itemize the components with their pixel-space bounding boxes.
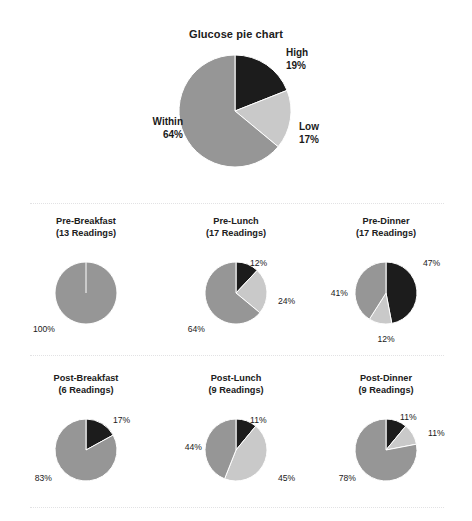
main-pie-label-within: Within 64% — [0, 116, 183, 141]
pie-chart-post-dinner — [352, 416, 420, 484]
section-divider-top — [30, 203, 444, 204]
chart-title-pre-dinner: Pre-Dinner (17 Readings) — [316, 216, 456, 239]
chart-title-post-breakfast: Post-Breakfast (6 Readings) — [16, 373, 156, 396]
page-title: Glucose pie chart — [0, 28, 472, 40]
pct-label-pre-dinner-high: 47% — [423, 258, 440, 268]
main-pie-label-low: Low 17% — [299, 121, 319, 146]
pct-label-post-dinner-low: 11% — [428, 428, 445, 438]
pct-label-post-lunch-high: 11% — [250, 415, 267, 425]
chart-title-post-dinner: Post-Dinner (9 Readings) — [316, 373, 456, 396]
pct-label-pre-lunch-high: 12% — [250, 258, 267, 268]
chart-title-post-lunch: Post-Lunch (9 Readings) — [166, 373, 306, 396]
pie-chart-pre-dinner — [352, 259, 420, 327]
section-divider-bottom — [30, 507, 444, 508]
pie-chart-main — [176, 52, 294, 170]
chart-title-pre-lunch: Pre-Lunch (17 Readings) — [166, 216, 306, 239]
main-pie-label-high: High 19% — [286, 47, 308, 72]
section-divider-middle — [30, 355, 444, 356]
pct-label-post-breakfast-high: 17% — [113, 415, 130, 425]
pct-label-pre-dinner-within: 41% — [0, 288, 348, 298]
pie-slice-high — [386, 262, 417, 323]
pct-label-pre-dinner-low: 12% — [346, 334, 426, 344]
glucose-pie-report: Glucose pie chart High 19%Low 17%Within … — [0, 0, 472, 521]
pct-label-pre-lunch-within: 64% — [0, 324, 205, 334]
pct-label-post-dinner-within: 78% — [0, 473, 356, 483]
chart-title-pre-breakfast: Pre-Breakfast (13 Readings) — [16, 216, 156, 239]
pct-label-post-lunch-within: 44% — [0, 442, 202, 452]
pct-label-post-dinner-high: 11% — [400, 412, 417, 422]
